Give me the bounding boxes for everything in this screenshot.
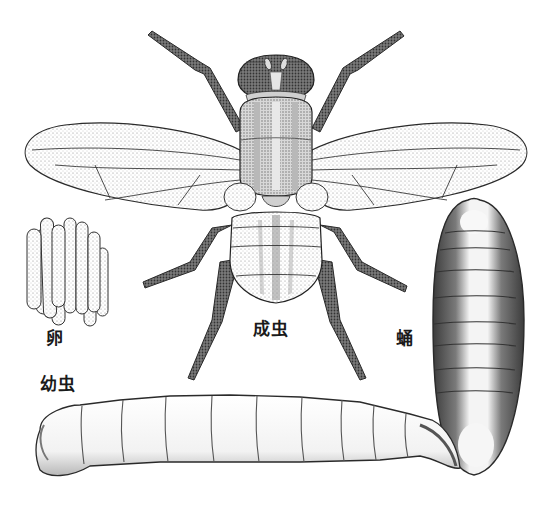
- egg-label: 卵: [46, 324, 64, 349]
- larva: [36, 395, 460, 476]
- illustration-canvas: [0, 0, 548, 518]
- adult-label: 成虫: [253, 315, 289, 340]
- right-wing: [308, 123, 527, 210]
- fly-abdomen: [230, 212, 322, 303]
- fly-life-cycle-diagram: 卵 成虫 蛹 幼虫: [0, 0, 548, 518]
- left-wing: [25, 123, 244, 210]
- fly-head: [238, 55, 314, 102]
- larva-label: 幼虫: [40, 370, 76, 395]
- pupa-label: 蛹: [396, 324, 414, 349]
- eggs: [27, 218, 108, 326]
